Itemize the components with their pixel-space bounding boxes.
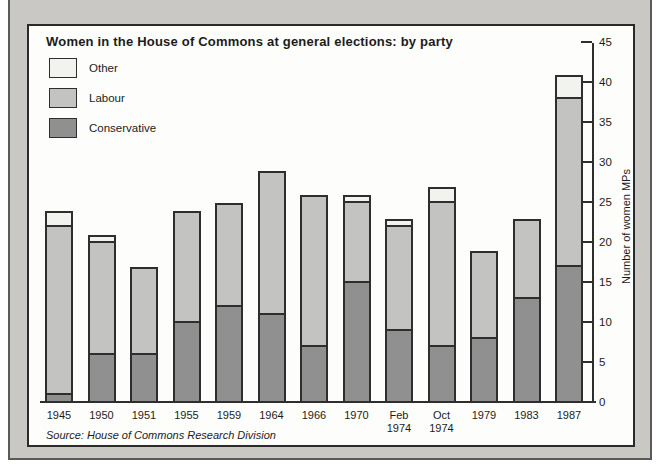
y-tick-label: 45 xyxy=(599,36,625,48)
bar-slot xyxy=(336,195,378,403)
conservative-segment xyxy=(428,347,456,403)
y-tick xyxy=(581,201,592,203)
page-frame: Women in the House of Commons at general… xyxy=(8,0,652,460)
other-segment xyxy=(428,187,456,203)
stacked-bar-1959 xyxy=(215,203,243,403)
labour-segment xyxy=(513,219,541,299)
bar-slot xyxy=(81,235,123,403)
conservative-segment xyxy=(130,355,158,403)
stacked-bar-feb-1974 xyxy=(385,219,413,403)
y-tick xyxy=(581,281,592,283)
x-tick-label: 1983 xyxy=(506,409,548,435)
bar-slot xyxy=(208,203,250,403)
labour-segment xyxy=(88,243,116,355)
conservative-segment xyxy=(555,267,583,403)
other-segment xyxy=(385,219,413,227)
stacked-bar-1951 xyxy=(130,267,158,403)
source-note: Source: House of Commons Research Divisi… xyxy=(46,429,276,441)
y-tick xyxy=(581,161,592,163)
y-tick-label: 0 xyxy=(599,396,625,408)
x-axis-line xyxy=(40,401,596,403)
labour-segment xyxy=(130,267,158,355)
y-tick-label: 35 xyxy=(599,116,625,128)
bar-slot xyxy=(166,211,208,403)
conservative-segment xyxy=(470,339,498,403)
labour-segment xyxy=(173,211,201,323)
other-segment xyxy=(555,75,583,99)
other-segment xyxy=(343,195,371,203)
x-tick-label: Oct1974 xyxy=(421,409,463,435)
bar-slot xyxy=(123,267,165,403)
labour-segment xyxy=(470,251,498,339)
conservative-segment xyxy=(173,323,201,403)
conservative-segment xyxy=(215,307,243,403)
y-tick xyxy=(581,241,592,243)
labour-segment xyxy=(300,195,328,347)
stacked-bar-1987 xyxy=(555,75,583,403)
y-tick xyxy=(581,81,592,83)
labour-segment xyxy=(215,203,243,307)
y-tick xyxy=(581,321,592,323)
conservative-segment xyxy=(300,347,328,403)
bar-slot xyxy=(463,251,505,403)
labour-segment xyxy=(385,227,413,331)
bar-slot xyxy=(293,195,335,403)
labour-segment xyxy=(343,203,371,283)
stacked-bar-1945 xyxy=(45,211,73,403)
labour-segment xyxy=(258,171,286,315)
x-tick-label: Feb1974 xyxy=(378,409,420,435)
conservative-segment xyxy=(88,355,116,403)
stacked-bar-1983 xyxy=(513,219,541,403)
bar-slot xyxy=(378,219,420,403)
bar-slot xyxy=(506,219,548,403)
x-tick-label: 1979 xyxy=(463,409,505,435)
stacked-bar-1955 xyxy=(173,211,201,403)
stacked-bar-1950 xyxy=(88,235,116,403)
chart-panel: Women in the House of Commons at general… xyxy=(27,24,635,447)
conservative-segment xyxy=(513,299,541,403)
x-tick-label: 1987 xyxy=(548,409,590,435)
stacked-bar-1966 xyxy=(300,195,328,403)
other-segment xyxy=(88,235,116,243)
y-axis-title: Number of women MPs xyxy=(620,152,632,302)
plot-area: 19451950195119551959196419661970Feb1974O… xyxy=(29,26,633,445)
y-tick-label: 10 xyxy=(599,316,625,328)
x-tick-label: 1970 xyxy=(336,409,378,435)
stacked-bar-1964 xyxy=(258,171,286,403)
bar-slot xyxy=(38,211,80,403)
y-tick-label: 40 xyxy=(599,76,625,88)
bar-slot xyxy=(421,187,463,403)
labour-segment xyxy=(45,227,73,395)
labour-segment xyxy=(555,99,583,267)
conservative-segment xyxy=(343,283,371,403)
other-segment xyxy=(45,211,73,227)
bar-slot xyxy=(251,171,293,403)
conservative-segment xyxy=(258,315,286,403)
x-tick-label: 1966 xyxy=(293,409,335,435)
bars xyxy=(38,41,590,403)
stacked-bar-oct-1974 xyxy=(428,187,456,403)
y-axis-line xyxy=(592,43,594,403)
y-tick xyxy=(581,41,592,43)
bar-slot xyxy=(548,75,590,403)
labour-segment xyxy=(428,203,456,347)
y-tick xyxy=(581,121,592,123)
stacked-bar-1970 xyxy=(343,195,371,403)
y-tick-label: 5 xyxy=(599,356,625,368)
y-tick xyxy=(581,361,592,363)
stacked-bar-1979 xyxy=(470,251,498,403)
conservative-segment xyxy=(385,331,413,403)
